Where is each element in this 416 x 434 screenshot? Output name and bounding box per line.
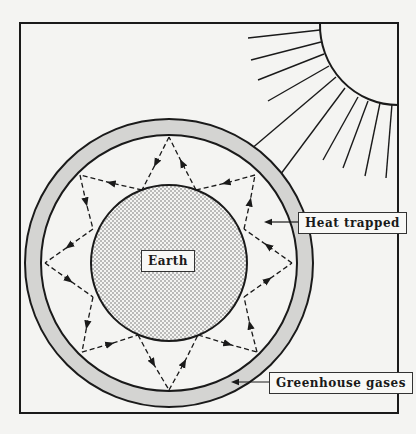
greenhouse-gases-label: Greenhouse gases	[269, 372, 413, 394]
sun	[320, 23, 398, 105]
heat-trapped-label: Heat trapped	[298, 212, 407, 234]
earth-label: Earth	[141, 250, 195, 272]
